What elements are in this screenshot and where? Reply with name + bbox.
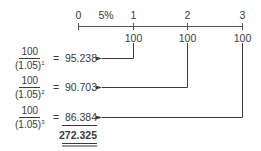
equals-sign-1: = <box>53 52 59 64</box>
fraction-denominator: (1.05)2 <box>15 88 44 100</box>
fraction-numerator: 100 <box>19 75 40 88</box>
present-value-1: 95.238 <box>63 52 97 64</box>
fraction-base: (1.05) <box>15 60 41 71</box>
cash-flow-3: 100 <box>234 32 252 44</box>
period-label-2: 2 <box>185 9 191 21</box>
period-label-1: 1 <box>131 9 137 21</box>
fraction-exponent: 1 <box>41 60 44 66</box>
discount-fraction-3: 100 (1.05)3 <box>15 105 44 130</box>
discount-fraction-2: 100 (1.05)2 <box>15 75 44 100</box>
equals-sign-3: = <box>53 111 59 123</box>
present-value-3: 86.384 <box>63 111 97 123</box>
total-present-value: 272.325 <box>57 129 97 141</box>
fraction-denominator: (1.05)3 <box>15 118 44 130</box>
arrow-period-2 <box>102 43 188 88</box>
arrow-period-1 <box>102 43 134 59</box>
fraction-exponent: 3 <box>41 119 44 125</box>
rate-label: 5% <box>98 9 113 21</box>
fraction-exponent: 2 <box>41 89 44 95</box>
discount-fraction-1: 100 (1.05)1 <box>15 46 44 71</box>
fraction-numerator: 100 <box>19 105 40 118</box>
cash-flow-2: 100 <box>179 32 197 44</box>
arrow-period-3 <box>102 43 243 118</box>
fraction-numerator: 100 <box>19 46 40 59</box>
period-label-3: 3 <box>240 9 246 21</box>
equals-sign-2: = <box>53 81 59 93</box>
present-value-2: 90.703 <box>63 81 97 93</box>
cash-flow-1: 100 <box>125 32 143 44</box>
timeline-axis <box>78 23 243 30</box>
fraction-denominator: (1.05)1 <box>15 59 44 71</box>
fraction-base: (1.05) <box>15 119 41 130</box>
fraction-base: (1.05) <box>15 89 41 100</box>
period-label-0: 0 <box>76 9 82 21</box>
